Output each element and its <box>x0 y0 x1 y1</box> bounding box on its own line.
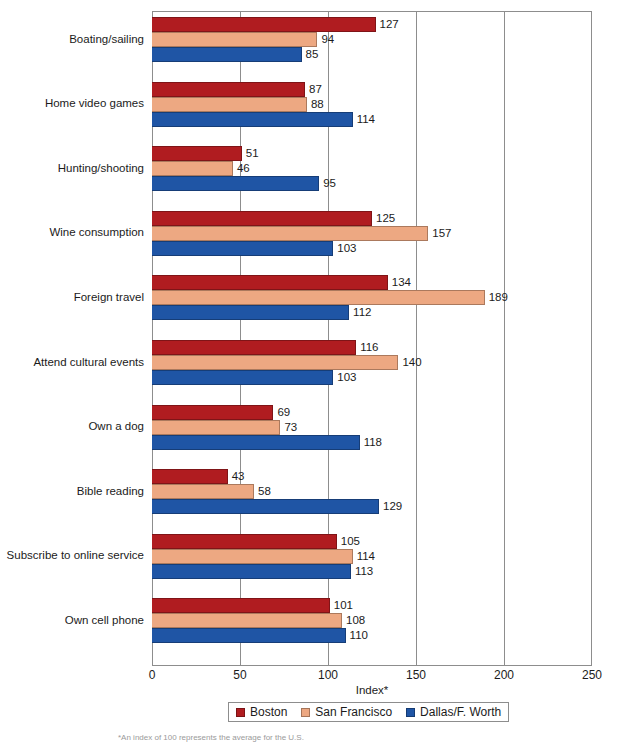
bar-value-label: 110 <box>350 628 368 643</box>
x-tick-label: 200 <box>494 668 514 682</box>
bar <box>152 146 242 161</box>
bar <box>152 628 346 643</box>
bar <box>152 484 254 499</box>
bar-value-label: 85 <box>306 47 319 62</box>
bar <box>152 420 280 435</box>
bar-value-label: 101 <box>334 598 353 613</box>
bar-value-label: 129 <box>383 499 402 514</box>
x-axis-ticks: 050100150200250 <box>152 668 592 684</box>
bar <box>152 613 342 628</box>
bar <box>152 290 485 305</box>
bar-value-label: 127 <box>380 17 399 32</box>
bar <box>152 534 337 549</box>
category-label: Wine consumption <box>49 226 144 239</box>
bar-value-label: 46 <box>237 161 250 176</box>
category-axis-labels: Boating/sailingHome video gamesHunting/s… <box>0 11 148 666</box>
category-label: Boating/sailing <box>69 33 144 46</box>
bar-value-label: 134 <box>392 275 411 290</box>
category-label: Own cell phone <box>65 614 144 627</box>
bar-value-label: 51 <box>246 146 259 161</box>
bar-value-label: 95 <box>323 176 336 191</box>
category-label: Hunting/shooting <box>58 162 144 175</box>
legend-item-san-francisco: San Francisco <box>301 705 392 719</box>
bar-value-label: 189 <box>489 290 508 305</box>
category-label: Bible reading <box>77 485 144 498</box>
legend-item-boston: Boston <box>236 705 287 719</box>
x-tick-label: 150 <box>406 668 426 682</box>
bar <box>152 47 302 62</box>
legend-swatch-icon <box>406 708 415 717</box>
bar-value-label: 114 <box>357 549 375 564</box>
bar <box>152 370 333 385</box>
bar-value-label: 103 <box>337 370 356 385</box>
x-tick-label: 50 <box>233 668 246 682</box>
bar-value-label: 116 <box>360 340 378 355</box>
bar <box>152 435 360 450</box>
bar <box>152 499 379 514</box>
x-tick-label: 100 <box>318 668 338 682</box>
bar-value-label: 140 <box>402 355 421 370</box>
bar-value-label: 113 <box>355 564 373 579</box>
bar <box>152 598 330 613</box>
bar-value-label: 103 <box>337 241 356 256</box>
legend-swatch-icon <box>236 708 245 717</box>
category-label: Own a dog <box>88 420 144 433</box>
chart-footnote: *An index of 100 represents the average … <box>118 733 304 742</box>
bar-value-label: 73 <box>284 420 297 435</box>
category-label: Foreign travel <box>74 291 144 304</box>
bar-value-label: 69 <box>277 405 290 420</box>
bar <box>152 97 307 112</box>
bar <box>152 405 273 420</box>
horizontal-bar-chart: Boating/sailingHome video gamesHunting/s… <box>0 0 617 742</box>
legend-swatch-icon <box>301 708 310 717</box>
bar-value-label: 118 <box>364 435 382 450</box>
bar <box>152 226 428 241</box>
legend-item-dallas-f-worth: Dallas/F. Worth <box>406 705 501 719</box>
bar-value-label: 114 <box>357 112 375 127</box>
bar <box>152 17 376 32</box>
bar-value-label: 105 <box>341 534 360 549</box>
bar-value-label: 87 <box>309 82 322 97</box>
bar-value-label: 112 <box>353 305 371 320</box>
bar <box>152 82 305 97</box>
bar-value-label: 88 <box>311 97 324 112</box>
bar <box>152 355 398 370</box>
x-tick-label: 0 <box>149 668 156 682</box>
legend-label: Dallas/F. Worth <box>420 705 501 719</box>
bar <box>152 340 356 355</box>
bar-value-label: 94 <box>321 32 334 47</box>
bar <box>152 32 317 47</box>
bar-value-label: 43 <box>232 469 245 484</box>
bar <box>152 469 228 484</box>
bar-value-label: 58 <box>258 484 271 499</box>
bar <box>152 564 351 579</box>
category-label: Home video games <box>45 97 144 110</box>
bar <box>152 211 372 226</box>
bar <box>152 176 319 191</box>
bar <box>152 112 353 127</box>
bar-value-label: 108 <box>346 613 365 628</box>
legend-label: San Francisco <box>315 705 392 719</box>
bar-value-label: 157 <box>432 226 451 241</box>
bar <box>152 241 333 256</box>
category-label: Attend cultural events <box>33 356 144 369</box>
legend: BostonSan FranciscoDallas/F. Worth <box>228 702 509 722</box>
legend-label: Boston <box>250 705 287 719</box>
bar <box>152 305 349 320</box>
bar <box>152 275 388 290</box>
bar <box>152 549 353 564</box>
bar-value-label: 125 <box>376 211 395 226</box>
category-label: Subscribe to online service <box>7 549 144 562</box>
bar <box>152 161 233 176</box>
x-axis-title: Index* <box>152 684 592 696</box>
x-tick-label: 250 <box>582 668 602 682</box>
bars-layer: 1279485878811451469512515710313418911211… <box>152 11 592 666</box>
